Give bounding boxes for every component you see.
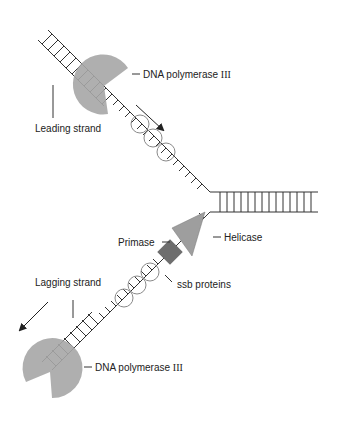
- label-leading-strand: Leading strand: [35, 123, 101, 134]
- replication-fork-diagram: DNA polymerase III Leading strand Helica…: [0, 0, 338, 424]
- label-ssb-proteins: ssb proteins: [177, 279, 231, 290]
- parental-dna-duplex: [210, 192, 318, 212]
- label-dna-polymerase-bottom: DNA polymerase III: [95, 362, 183, 373]
- lagging-direction-arrow: [20, 302, 48, 330]
- label-lagging-strand: Lagging strand: [35, 277, 101, 288]
- dna-polymerase-bottom-shape: [23, 338, 83, 398]
- leading-strand-template: [38, 30, 210, 192]
- label-helicase: Helicase: [224, 232, 263, 243]
- ssb-proteins-top: [131, 115, 175, 161]
- label-primase: Primase: [118, 237, 155, 248]
- label-dna-polymerase-top: DNA polymerase III: [143, 69, 231, 80]
